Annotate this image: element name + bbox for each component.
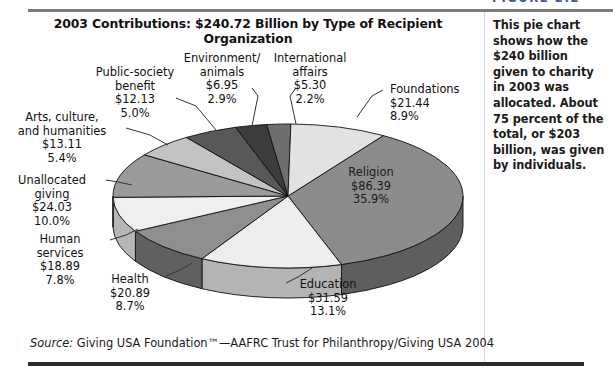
slice-label-unallocated-giving: Unallocatedgiving$24.0310.0% bbox=[18, 173, 86, 228]
slice-label-religion: Religion$86.3935.9% bbox=[348, 165, 393, 206]
leader-line-arts-culture-and-humanities bbox=[126, 128, 168, 145]
source-prefix: Source: bbox=[30, 336, 73, 350]
pie-slices-group bbox=[113, 124, 463, 298]
slice-label-foundations: Foundations$21.448.9% bbox=[390, 82, 460, 123]
source-text: Giving USA Foundation™—AAFRC Trust for P… bbox=[73, 336, 494, 350]
slice-label-arts-culture-and-humanities: Arts, culture,and humanities$13.115.4% bbox=[18, 110, 107, 165]
slice-label-international-affairs: Internationalaffairs$5.302.2% bbox=[274, 51, 347, 106]
slice-label-health: Health$20.898.7% bbox=[110, 272, 150, 313]
source-line: Source: Giving USA Foundation™—AAFRC Tru… bbox=[30, 336, 494, 350]
slice-label-education: Education$31.5913.1% bbox=[300, 277, 357, 318]
leader-line-foundations bbox=[357, 90, 383, 117]
slice-label-public-society-benefit: Public-societybenefit$12.135.0% bbox=[96, 65, 175, 120]
leader-line-environment-animals bbox=[252, 88, 258, 126]
figure-page: FIGURE 2.2 2003 Contributions: $240.72 B… bbox=[0, 0, 613, 374]
pie-chart: Religion$86.3935.9%Education$31.5913.1%H… bbox=[0, 0, 613, 374]
slice-label-environment-animals: Environment/animals$6.952.9% bbox=[184, 51, 261, 106]
slice-label-human-services: Humanservices$18.897.8% bbox=[37, 232, 84, 287]
